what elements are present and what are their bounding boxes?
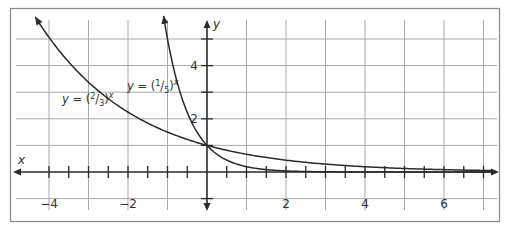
x-tick-label: 2 — [282, 197, 290, 211]
curve-label-eq: = ( — [134, 79, 155, 93]
curve-label-exp: x — [108, 91, 114, 100]
y-tick-label: 4 — [190, 59, 198, 73]
curve-label: y = (1/5)x — [126, 78, 179, 95]
exponential-decay-chart: −4−224624 y = (2/3)xy = (1/5)x x y — [0, 0, 510, 230]
curve-label: y = (2/3)x — [61, 91, 114, 108]
x-tick-label: −2 — [119, 197, 137, 211]
x-tick-label: −4 — [40, 197, 58, 211]
curve-label-exp: x — [173, 78, 179, 87]
y-axis-label: y — [212, 17, 221, 31]
x-axis-label: x — [17, 153, 26, 167]
curve-label-y: y — [61, 92, 69, 106]
curve-label-y: y — [126, 79, 134, 93]
chart-frame — [11, 9, 500, 222]
curve-label-eq: = ( — [69, 92, 90, 106]
y-tick-label: 2 — [190, 112, 198, 126]
x-tick-label: 6 — [440, 197, 448, 211]
x-tick-label: 4 — [361, 197, 369, 211]
